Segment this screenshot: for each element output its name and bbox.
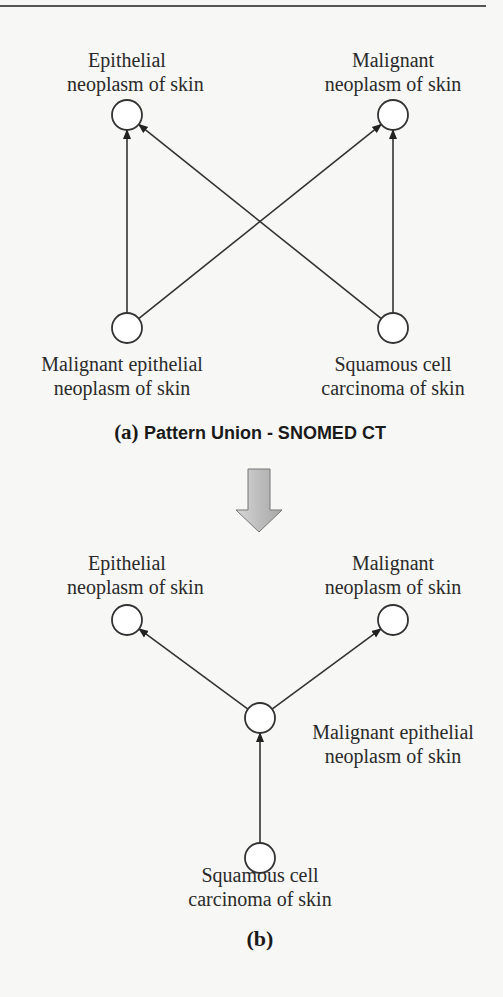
- node-diagram_b-malignant_epithelial: [245, 703, 275, 733]
- node-diagram_a-malignant_epithelial: [112, 313, 142, 343]
- node-label-b-malignant: Malignantneoplasm of skin: [323, 551, 463, 599]
- diagram-canvas: [0, 0, 503, 997]
- caption-a: (a) Pattern Union - SNOMED CT: [100, 420, 400, 445]
- caption-b: (b): [210, 926, 310, 952]
- node-label-a-epithelial: Epithelialneoplasm of skin: [67, 48, 187, 96]
- edge-diagram_b-malignant_epithelial-to-malignant: [272, 629, 381, 709]
- node-diagram_b-epithelial: [112, 605, 142, 635]
- node-label-b-malignant-epithelial: Malignant epithelialneoplasm of skin: [298, 720, 488, 768]
- node-diagram_a-malignant: [378, 100, 408, 130]
- node-label-b-squamous: Squamous cellcarcinoma of skin: [180, 863, 340, 911]
- down-arrow-icon: [236, 469, 282, 532]
- edge-diagram_b-malignant_epithelial-to-epithelial: [139, 629, 248, 709]
- node-diagram_b-malignant: [378, 605, 408, 635]
- node-diagram_a-epithelial: [112, 100, 142, 130]
- node-label-b-epithelial: Epithelialneoplasm of skin: [67, 551, 187, 599]
- node-label-a-malignant-epithelial: Malignant epithelialneoplasm of skin: [27, 352, 217, 400]
- node-label-a-malignant: Malignantneoplasm of skin: [323, 48, 463, 96]
- node-diagram_a-squamous: [378, 313, 408, 343]
- node-label-a-squamous: Squamous cellcarcinoma of skin: [313, 352, 473, 400]
